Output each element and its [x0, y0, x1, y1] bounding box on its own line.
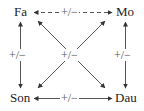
- label-father-son: +/−: [8, 49, 27, 61]
- label-mother-daughter: +/−: [113, 49, 132, 61]
- node-father: Fa: [14, 5, 27, 19]
- node-son: Son: [10, 91, 30, 105]
- node-mother: Mo: [116, 5, 134, 19]
- label-father-mother: +/−: [60, 6, 79, 18]
- label-son-daughter: +/−: [60, 92, 79, 104]
- label-diagonals: +/−: [60, 49, 79, 61]
- node-daughter: Dau: [115, 91, 137, 105]
- family-relations-diagram: Fa Mo Son Dau +/− +/− +/− +/− +/−: [0, 0, 144, 111]
